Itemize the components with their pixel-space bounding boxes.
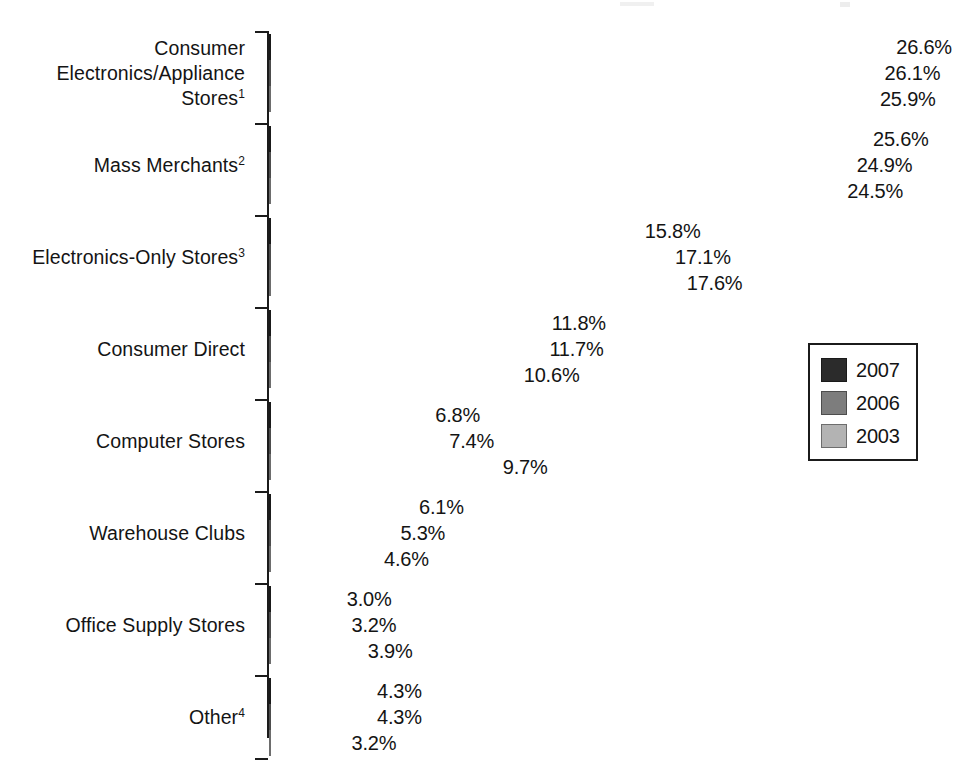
axis-tick	[255, 215, 268, 217]
bar-value-label: 6.8%	[435, 405, 480, 425]
category-label: Consumer Direct	[0, 337, 245, 362]
category-footnote-marker: 3	[238, 245, 245, 259]
bar-fill	[269, 336, 271, 362]
bar-group: Office Supply Stores3.0%3.2%3.9%	[0, 586, 959, 664]
bar: 3.9%	[269, 638, 360, 664]
bar: 17.1%	[269, 244, 667, 270]
category-label: Other4	[0, 705, 245, 730]
bar: 3.2%	[269, 730, 343, 756]
bar-value-label: 10.6%	[524, 365, 580, 385]
bar-fill	[269, 244, 271, 270]
bar-value-label: 3.2%	[351, 615, 396, 635]
bar-fill	[269, 546, 271, 572]
bar-value-label: 26.6%	[896, 37, 952, 57]
bar-group: ConsumerElectronics/ApplianceStores126.6…	[0, 34, 959, 112]
category-label-line: Computer Stores	[0, 429, 245, 454]
bar-fill	[269, 218, 271, 244]
axis-tick	[255, 758, 268, 760]
bar-value-label: 15.8%	[645, 221, 701, 241]
axis-tick	[255, 399, 268, 401]
bar-value-label: 17.1%	[675, 247, 731, 267]
bar-fill	[269, 638, 271, 664]
chart-page: ConsumerElectronics/ApplianceStores126.6…	[0, 0, 959, 766]
category-label-line: Stores1	[0, 86, 245, 111]
category-label: Electronics-Only Stores3	[0, 245, 245, 270]
bar: 24.5%	[269, 178, 839, 204]
bar-fill	[269, 612, 271, 638]
bar-fill	[269, 362, 271, 388]
legend-swatch-icon	[821, 424, 847, 448]
bar: 4.6%	[269, 546, 376, 572]
bar-value-label: 9.7%	[503, 457, 548, 477]
bar-fill	[269, 704, 271, 730]
category-label: ConsumerElectronics/ApplianceStores1	[0, 36, 245, 111]
bar: 26.6%	[269, 34, 888, 60]
bar: 11.7%	[269, 336, 541, 362]
bar: 9.7%	[269, 454, 495, 480]
bar: 4.3%	[269, 704, 369, 730]
category-label-line: Other4	[0, 705, 245, 730]
bar-value-label: 4.3%	[377, 681, 422, 701]
bar-value-label: 3.9%	[368, 641, 413, 661]
category-label-line: Electronics-Only Stores3	[0, 245, 245, 270]
category-footnote-marker: 4	[238, 705, 245, 719]
bar: 17.6%	[269, 270, 679, 296]
bar-value-label: 4.3%	[377, 707, 422, 727]
category-footnote-marker: 2	[238, 153, 245, 167]
bar-fill	[269, 178, 271, 204]
axis-tick	[255, 123, 268, 125]
bar-value-label: 6.1%	[419, 497, 464, 517]
bar: 7.4%	[269, 428, 441, 454]
chart-legend: 200720062003	[808, 343, 918, 461]
bar-group: Mass Merchants225.6%24.9%24.5%	[0, 126, 959, 204]
legend-label: 2007	[856, 359, 900, 382]
legend-swatch-icon	[821, 391, 847, 415]
axis-tick	[255, 307, 268, 309]
legend-label: 2006	[856, 392, 900, 415]
bar: 11.8%	[269, 310, 544, 336]
bar-group: Warehouse Clubs6.1%5.3%4.6%	[0, 494, 959, 572]
bar-value-label: 26.1%	[885, 63, 941, 83]
bar-fill	[269, 126, 271, 152]
category-label: Office Supply Stores	[0, 613, 245, 638]
bar-group: Electronics-Only Stores315.8%17.1%17.6%	[0, 218, 959, 296]
bar: 6.1%	[269, 494, 411, 520]
bar: 24.9%	[269, 152, 849, 178]
bar-fill	[269, 152, 271, 178]
bar: 3.2%	[269, 612, 343, 638]
legend-item[interactable]: 2006	[821, 390, 900, 416]
bar-fill	[269, 494, 271, 520]
axis-tick	[255, 675, 268, 677]
bar: 10.6%	[269, 362, 516, 388]
legend-item[interactable]: 2007	[821, 357, 900, 383]
bar-value-label: 17.6%	[687, 273, 743, 293]
category-footnote-marker: 1	[238, 86, 245, 100]
axis-tick	[255, 491, 268, 493]
bar: 4.3%	[269, 678, 369, 704]
legend-swatch-icon	[821, 358, 847, 382]
bar-fill	[269, 270, 271, 296]
bar-value-label: 25.6%	[873, 129, 929, 149]
legend-item[interactable]: 2003	[821, 423, 900, 449]
axis-tick	[255, 583, 268, 585]
bar-fill	[269, 428, 271, 454]
category-label-line: Mass Merchants2	[0, 153, 245, 178]
category-label-line: Consumer	[0, 36, 245, 61]
bar-value-label: 3.0%	[347, 589, 392, 609]
bar-value-label: 24.9%	[857, 155, 913, 175]
bar: 26.1%	[269, 60, 877, 86]
bar-value-label: 24.5%	[847, 181, 903, 201]
category-label-line: Office Supply Stores	[0, 613, 245, 638]
bar-value-label: 7.4%	[449, 431, 494, 451]
bar-value-label: 3.2%	[351, 733, 396, 753]
bar-fill	[269, 402, 271, 428]
bar-fill	[269, 520, 271, 546]
bar-value-label: 25.9%	[880, 89, 936, 109]
category-label-line: Electronics/Appliance	[0, 61, 245, 86]
bar: 3.0%	[269, 586, 339, 612]
category-label: Computer Stores	[0, 429, 245, 454]
bar-value-label: 4.6%	[384, 549, 429, 569]
bar-fill	[269, 586, 271, 612]
category-label-line: Warehouse Clubs	[0, 521, 245, 546]
bar: 25.6%	[269, 126, 865, 152]
